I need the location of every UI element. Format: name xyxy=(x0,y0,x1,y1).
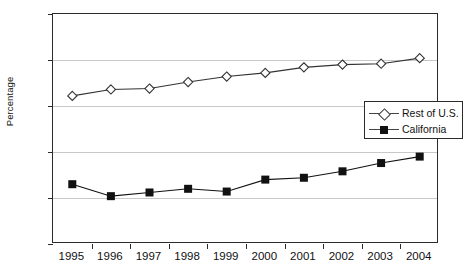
data-point-filled-square xyxy=(416,153,424,161)
x-tick-label-2004: 2004 xyxy=(399,250,438,262)
plot-area: Rest of U.S. California xyxy=(52,13,438,243)
data-point-filled-square xyxy=(68,180,76,188)
data-point-filled-square xyxy=(377,159,385,167)
data-point-open-diamond xyxy=(415,54,424,63)
data-point-open-diamond xyxy=(261,68,270,77)
filled-square-marker-icon xyxy=(369,122,399,136)
data-point-filled-square xyxy=(184,185,192,193)
x-tick-mark xyxy=(285,244,286,249)
y-tick-mark xyxy=(48,152,53,153)
x-tick-label-1999: 1999 xyxy=(206,250,245,262)
x-tick-mark xyxy=(207,244,208,249)
series-line-0 xyxy=(72,58,419,96)
x-tick-label-1998: 1998 xyxy=(168,250,207,262)
y-tick-mark xyxy=(48,244,53,245)
x-tick-mark xyxy=(130,244,131,249)
data-point-open-diamond xyxy=(222,72,231,81)
y-tick-mark xyxy=(48,14,53,15)
data-point-open-diamond xyxy=(299,63,308,72)
x-tick-label-1995: 1995 xyxy=(52,250,91,262)
data-point-open-diamond xyxy=(68,91,77,100)
y-axis-title: Percentage xyxy=(4,59,15,145)
legend-item-rest-of-us: Rest of U.S. xyxy=(369,105,462,121)
x-tick-label-1996: 1996 xyxy=(91,250,130,262)
x-tick-mark xyxy=(362,244,363,249)
data-point-filled-square xyxy=(300,174,308,182)
legend-label-rest-of-us: Rest of U.S. xyxy=(402,107,459,119)
x-tick-mark xyxy=(323,244,324,249)
x-tick-mark xyxy=(169,244,170,249)
x-tick-label-2003: 2003 xyxy=(361,250,400,262)
data-point-open-diamond xyxy=(106,85,115,94)
y-tick-mark xyxy=(48,198,53,199)
x-tick-mark xyxy=(400,244,401,249)
data-point-open-diamond xyxy=(145,84,154,93)
data-point-filled-square xyxy=(223,188,231,196)
gridline xyxy=(53,152,437,153)
legend: Rest of U.S. California xyxy=(364,101,463,139)
x-tick-label-2002: 2002 xyxy=(322,250,361,262)
data-point-open-diamond xyxy=(184,77,193,86)
x-tick-label-1997: 1997 xyxy=(129,250,168,262)
data-point-filled-square xyxy=(261,176,269,184)
legend-label-california: California xyxy=(402,123,446,135)
gridline xyxy=(53,60,437,61)
data-point-filled-square xyxy=(146,188,154,196)
data-point-open-diamond xyxy=(338,60,347,69)
x-tick-mark xyxy=(246,244,247,249)
y-tick-mark xyxy=(48,106,53,107)
series-line-1 xyxy=(72,157,419,197)
data-point-filled-square xyxy=(339,167,347,175)
gridline xyxy=(53,198,437,199)
y-tick-mark xyxy=(48,60,53,61)
x-tick-mark xyxy=(92,244,93,249)
legend-item-california: California xyxy=(369,121,462,137)
x-tick-label-2001: 2001 xyxy=(284,250,323,262)
open-diamond-marker-icon xyxy=(369,106,399,120)
x-tick-label-2000: 2000 xyxy=(245,250,284,262)
